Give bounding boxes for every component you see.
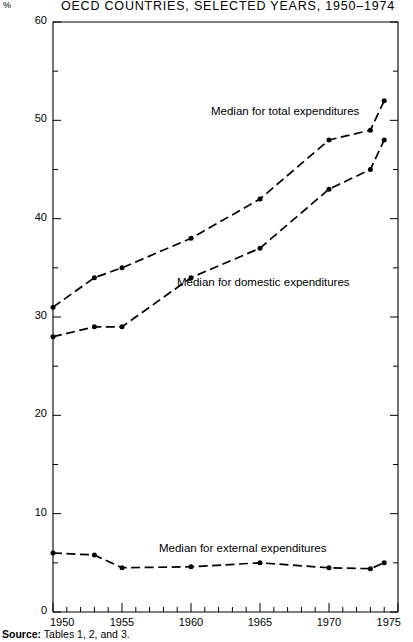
- series-annotation-domestic: Median for domestic expenditures: [177, 276, 350, 288]
- y-axis-tick-label: 20: [17, 407, 47, 419]
- x-axis-tick-label: 1950: [50, 616, 100, 628]
- series-annotation-external: Median for external expenditures: [159, 542, 327, 554]
- y-axis-tick-label: 0: [17, 604, 47, 616]
- x-axis-tick-label: 1975: [351, 616, 401, 628]
- series-annotation-total: Median for total expenditures: [211, 105, 359, 117]
- x-axis-tick-label: 1955: [97, 616, 147, 628]
- source-note: Source: Tables 1, 2, and 3.: [2, 628, 130, 640]
- y-axis-tick-label: 10: [17, 506, 47, 518]
- x-axis-tick-label: 1970: [304, 616, 354, 628]
- source-label: Source:: [2, 628, 41, 640]
- chart-figure: OECD COUNTRIES, SELECTED YEARS, 1950–197…: [0, 0, 413, 642]
- y-axis-tick-label: 50: [17, 112, 47, 124]
- source-text: Tables 1, 2, and 3.: [44, 628, 130, 640]
- x-axis-tick-label: 1965: [235, 616, 285, 628]
- x-axis-tick-label: 1960: [166, 616, 216, 628]
- y-axis-tick-label: 40: [17, 211, 47, 223]
- y-axis-tick-label: 60: [17, 14, 47, 26]
- y-axis-tick-label: 30: [17, 309, 47, 321]
